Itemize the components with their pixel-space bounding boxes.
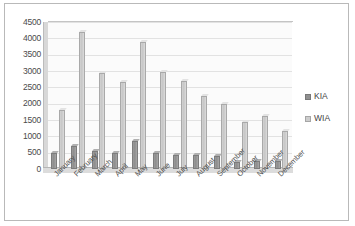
bar-group <box>109 22 129 169</box>
bar-wia[interactable] <box>120 82 126 169</box>
y-axis-tick-label: 3500 <box>5 50 41 59</box>
chart-frame: 050010001500200025003000350040004500 Jan… <box>4 3 349 221</box>
legend-label-wia: WIA <box>314 114 330 123</box>
y-axis-tick-label: 4500 <box>5 18 41 27</box>
y-axis-tick-label: 2000 <box>5 99 41 108</box>
legend-swatch-kia-icon <box>305 94 311 100</box>
bar-top-cap <box>99 71 107 73</box>
bar-group <box>68 22 88 169</box>
bar-group <box>251 22 271 169</box>
bar-top-cap <box>221 102 229 104</box>
bar-group <box>48 22 68 169</box>
bar-top-cap <box>201 94 209 96</box>
bar-top-cap <box>140 40 148 42</box>
bar-wia[interactable] <box>160 72 166 169</box>
bar-kia[interactable] <box>132 141 138 169</box>
bar-face <box>201 96 207 170</box>
bar-face <box>79 32 85 169</box>
bar-face <box>140 42 146 169</box>
legend-swatch-wia-icon <box>305 116 311 122</box>
bar-top-cap <box>79 30 87 32</box>
bar-wia[interactable] <box>79 32 85 169</box>
bar-group <box>150 22 170 169</box>
y-axis-tick-label: 2500 <box>5 83 41 92</box>
bar-top-cap <box>262 114 270 116</box>
bar-wia[interactable] <box>140 42 146 169</box>
y-axis-tick-label: 3000 <box>5 67 41 76</box>
legend-item-wia[interactable]: WIA <box>305 114 349 123</box>
y-axis-tick-label: 0 <box>5 165 41 174</box>
legend-item-kia[interactable]: KIA <box>305 92 349 101</box>
bar-group <box>89 22 109 169</box>
y-axis-tick-label: 1000 <box>5 132 41 141</box>
bar-wia[interactable] <box>201 96 207 170</box>
bar-face <box>160 72 166 169</box>
bar-group <box>272 22 292 169</box>
legend-label-kia: KIA <box>314 92 328 101</box>
y-axis-tick-label: 500 <box>5 148 41 157</box>
bar-top-cap <box>59 108 67 110</box>
bar-group <box>129 22 149 169</box>
bar-face <box>181 81 187 169</box>
x-axis: JanuaryFebruaryMarchAprilMayJuneJulyAugu… <box>48 172 298 222</box>
chart-legend: KIA WIA <box>305 92 349 136</box>
bar-group <box>170 22 190 169</box>
y-axis-tick-label: 4000 <box>5 34 41 43</box>
bar-top-cap <box>242 120 250 122</box>
y-axis: 050010001500200025003000350040004500 <box>5 16 41 176</box>
bar-group <box>190 22 210 169</box>
bars-layer <box>48 22 292 169</box>
bar-wia[interactable] <box>99 73 105 169</box>
bar-face <box>120 82 126 169</box>
bar-face <box>132 141 138 169</box>
bar-wia[interactable] <box>181 81 187 169</box>
bar-face <box>99 73 105 169</box>
y-axis-tick-label: 1500 <box>5 116 41 125</box>
bar-group <box>211 22 231 169</box>
bar-top-cap <box>160 70 168 72</box>
bar-top-cap <box>181 79 189 81</box>
